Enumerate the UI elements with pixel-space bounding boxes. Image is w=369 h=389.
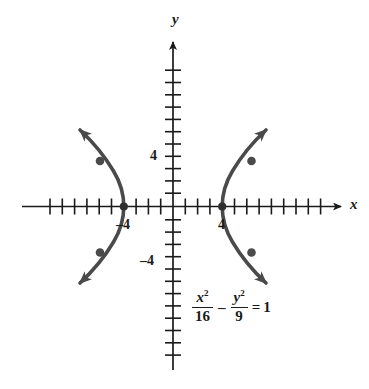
exponent-two-x: 2 bbox=[204, 288, 209, 298]
marked-point-q4 bbox=[247, 248, 256, 257]
y-axis-label: y bbox=[172, 12, 179, 27]
y-tick-label-4: 4 bbox=[150, 149, 157, 163]
y-tick-label-negative-4: –4 bbox=[140, 254, 154, 268]
numerator-y-squared: y2 bbox=[231, 290, 248, 307]
x-tick-label-4: 4 bbox=[218, 218, 225, 232]
hyperbola-figure: y x 4 –4 4 –4 x2 16 – y2 9 = 1 bbox=[0, 0, 369, 389]
marked-point-q3 bbox=[96, 248, 105, 257]
hyperbola-right-upper-arc bbox=[222, 130, 266, 207]
denominator-16: 16 bbox=[192, 308, 213, 325]
exponent-two-y: 2 bbox=[240, 288, 245, 298]
fraction-y-squared-over-9: y2 9 bbox=[231, 290, 248, 325]
x-tick-label-negative-4: –4 bbox=[116, 218, 130, 232]
vertex-point-right bbox=[218, 202, 226, 210]
hyperbola-left-upper-arc bbox=[80, 130, 124, 207]
coordinate-plot bbox=[0, 0, 369, 389]
minus-operator: – bbox=[218, 300, 226, 315]
fraction-x-squared-over-16: x2 16 bbox=[192, 290, 213, 325]
numerator-x: x bbox=[197, 289, 205, 305]
x-axis-label: x bbox=[350, 197, 358, 212]
equals-sign: = bbox=[252, 300, 261, 315]
equation-annotation: x2 16 – y2 9 = 1 bbox=[191, 290, 271, 325]
denominator-9: 9 bbox=[232, 308, 246, 325]
right-hand-side-value: 1 bbox=[263, 300, 271, 315]
marked-point-q1 bbox=[247, 157, 256, 166]
hyperbola-right-lower-arc bbox=[222, 207, 266, 284]
numerator-x-squared: x2 bbox=[194, 290, 212, 307]
vertex-point-left bbox=[120, 202, 128, 210]
x-axis bbox=[22, 199, 341, 215]
marked-point-q2 bbox=[96, 157, 105, 166]
